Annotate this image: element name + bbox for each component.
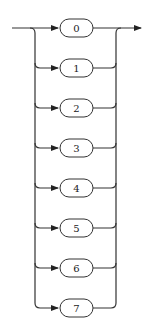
terminal-label: 7 (73, 303, 79, 314)
branch-in-line (35, 223, 58, 228)
branch-in-line (35, 263, 58, 268)
branch-out-line (93, 63, 116, 68)
branch-out-line (93, 143, 116, 148)
terminal-label: 3 (73, 143, 79, 154)
branch-out-line (93, 263, 116, 268)
choice-branch: 3 (35, 139, 116, 157)
right-branch-rail (116, 28, 121, 303)
choice-branch: 1 (35, 59, 116, 77)
choice-branch: 4 (35, 179, 116, 197)
branch-in-line (35, 183, 58, 188)
terminal-label: 2 (73, 103, 79, 114)
choice-branch: 5 (35, 219, 116, 237)
branch-out-line (93, 303, 116, 308)
choice-branch: 0 (60, 19, 93, 37)
branch-in-line (35, 303, 58, 308)
terminal-label: 1 (73, 63, 79, 74)
terminal-label: 6 (73, 263, 79, 274)
branch-out-line (93, 183, 116, 188)
left-branch-rail (30, 28, 35, 303)
choice-branch: 6 (35, 259, 116, 277)
railroad-diagram: 01234567 (0, 0, 147, 333)
terminal-label: 4 (73, 183, 79, 194)
branch-out-line (93, 103, 116, 108)
branch-in-line (35, 63, 58, 68)
choice-branch: 2 (35, 99, 116, 117)
branch-in-line (35, 143, 58, 148)
choice-branch: 7 (35, 299, 116, 317)
branch-in-line (35, 103, 58, 108)
terminal-label: 5 (73, 223, 79, 234)
terminal-label: 0 (73, 23, 79, 34)
branch-out-line (93, 223, 116, 228)
